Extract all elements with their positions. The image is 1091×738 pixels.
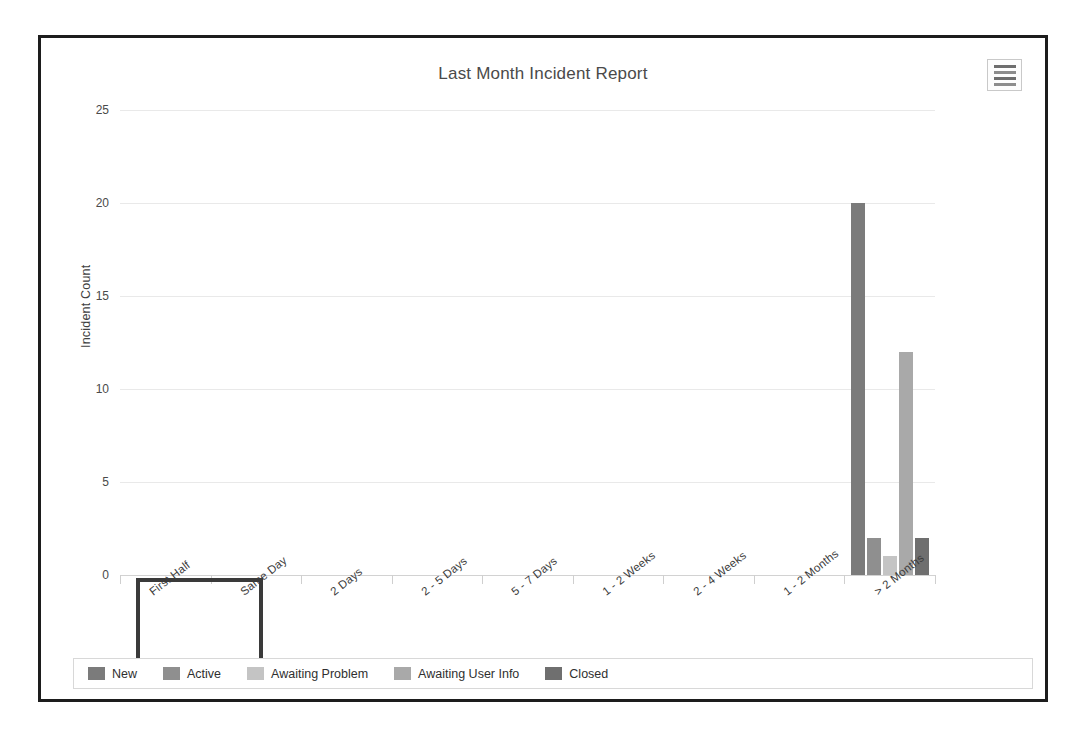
chart-title: Last Month Incident Report xyxy=(41,64,1045,84)
bar-group xyxy=(120,110,211,575)
legend-item[interactable]: Awaiting Problem xyxy=(247,667,368,681)
x-axis-tick xyxy=(935,575,936,584)
bar-group xyxy=(211,110,302,575)
bar-group xyxy=(392,110,483,575)
y-tick-label: 25 xyxy=(96,103,109,117)
bar-group xyxy=(663,110,754,575)
legend-swatch-icon xyxy=(545,667,562,680)
bar[interactable] xyxy=(851,203,865,575)
legend-item[interactable]: Active xyxy=(163,667,221,681)
menu-lines-icon[interactable] xyxy=(987,59,1022,91)
legend-swatch-icon xyxy=(247,667,264,680)
y-axis-title: Incident Count xyxy=(79,265,93,348)
legend-item[interactable]: New xyxy=(88,667,137,681)
legend-item[interactable]: Awaiting User Info xyxy=(394,667,519,681)
legend-label: New xyxy=(112,667,137,681)
y-tick-label: 20 xyxy=(96,196,109,210)
x-axis-tick xyxy=(663,575,664,584)
legend-label: Awaiting User Info xyxy=(418,667,519,681)
bar-group xyxy=(573,110,664,575)
bar[interactable] xyxy=(899,352,913,575)
x-axis-tick xyxy=(301,575,302,584)
bar-group xyxy=(482,110,573,575)
legend-swatch-icon xyxy=(88,667,105,680)
bar-group xyxy=(844,110,935,575)
x-axis-tick xyxy=(392,575,393,584)
plot-area: 0510152025First HalfSame Day2 Days2 - 5 … xyxy=(120,110,935,575)
x-axis-tick xyxy=(120,575,121,584)
incident-report-panel: Last Month Incident Report Incident Coun… xyxy=(38,35,1048,702)
y-tick-label: 15 xyxy=(96,289,109,303)
legend-item[interactable]: Closed xyxy=(545,667,608,681)
chart-legend: NewActiveAwaiting ProblemAwaiting User I… xyxy=(73,658,1033,689)
x-axis-tick xyxy=(211,575,212,584)
legend-label: Awaiting Problem xyxy=(271,667,368,681)
y-tick-label: 10 xyxy=(96,382,109,396)
x-axis-tick xyxy=(482,575,483,584)
menu-line-3 xyxy=(994,77,1016,80)
legend-label: Closed xyxy=(569,667,608,681)
bar-group xyxy=(301,110,392,575)
bar-group xyxy=(754,110,845,575)
y-tick-label: 5 xyxy=(102,475,109,489)
menu-line-4 xyxy=(994,83,1016,86)
y-tick-label: 0 xyxy=(102,568,109,582)
bar[interactable] xyxy=(867,538,881,575)
menu-line-1 xyxy=(994,65,1016,68)
x-axis-tick xyxy=(573,575,574,584)
menu-line-2 xyxy=(994,71,1016,74)
legend-swatch-icon xyxy=(394,667,411,680)
x-axis-tick xyxy=(844,575,845,584)
legend-swatch-icon xyxy=(163,667,180,680)
legend-label: Active xyxy=(187,667,221,681)
x-axis-tick xyxy=(754,575,755,584)
